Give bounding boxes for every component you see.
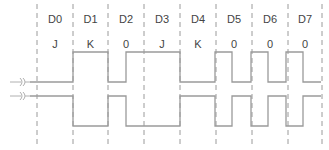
trace-data-minus (30, 96, 321, 126)
bit-cell-symbol: 0 (267, 38, 273, 50)
bit-cell-name: D2 (119, 13, 133, 25)
signal-traces (30, 52, 321, 126)
trace-data-plus (30, 52, 321, 82)
bit-cell-name: D7 (298, 13, 312, 25)
bit-cell-symbol: 0 (302, 38, 308, 50)
bit-cell-name: D0 (48, 13, 62, 25)
bit-cell-symbol: 0 (231, 38, 237, 50)
bit-cell-name: D3 (155, 13, 169, 25)
break-icon (10, 92, 31, 100)
bit-cell-name: D5 (227, 13, 241, 25)
bit-cell-symbol: J (52, 38, 58, 50)
bit-cell-name: D1 (83, 13, 97, 25)
break-symbols (10, 78, 31, 100)
bit-cell-symbol: K (87, 38, 95, 50)
bit-cell-symbol: K (194, 38, 202, 50)
bit-cell-name: D4 (191, 13, 205, 25)
bit-cell-symbol: 0 (123, 38, 129, 50)
bit-cell-name: D6 (263, 13, 277, 25)
break-icon (10, 78, 31, 86)
timing-diagram: D0D1D2D3D4D5D6D7 JK0JK000 (0, 0, 329, 150)
bit-cell-symbol: J (159, 38, 165, 50)
